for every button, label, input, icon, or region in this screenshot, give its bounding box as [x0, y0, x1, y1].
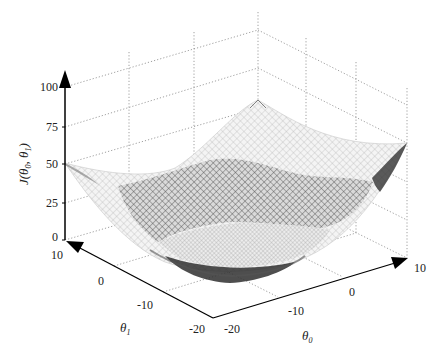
z-tick-0: 0 — [52, 230, 58, 244]
z-axis: 100 75 50 25 0 J(θ0, θ1) — [16, 70, 71, 244]
z-tick-50: 50 — [46, 157, 58, 171]
theta1-axis-label: θ1 — [120, 320, 130, 337]
theta1-tick-neg10: -10 — [137, 298, 153, 312]
z-axis-label: J(θ0, θ1) — [16, 143, 33, 185]
theta0-tick-10: 10 — [414, 261, 426, 275]
theta0-axis-arrow-icon — [391, 257, 408, 269]
theta0-axis-label: θ0 — [302, 328, 312, 345]
z-tick-100: 100 — [40, 80, 58, 94]
theta1-axis-arrow-icon — [66, 241, 84, 253]
theta1-tick-0: 0 — [98, 274, 104, 288]
theta0-tick-0: 0 — [349, 285, 355, 299]
surface-plot: 100 75 50 25 0 J(θ0, θ1) 10 0 -10 -20 θ1… — [0, 0, 439, 349]
theta0-tick-neg20: -20 — [224, 322, 240, 336]
z-tick-25: 25 — [46, 196, 58, 210]
theta0-tick-neg10: -10 — [288, 304, 304, 318]
theta1-tick-neg20: -20 — [189, 322, 205, 336]
cost-surface — [65, 100, 407, 283]
z-tick-75: 75 — [46, 120, 58, 134]
z-axis-arrow-icon — [59, 70, 71, 88]
theta1-tick-10: 10 — [51, 248, 63, 262]
